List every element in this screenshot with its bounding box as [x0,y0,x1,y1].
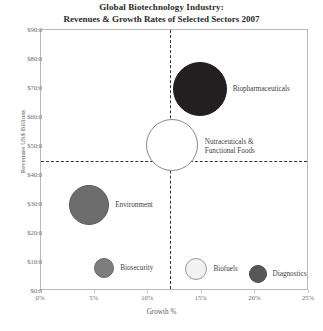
y-axis-title: Revenues US$ Billions [19,72,26,212]
y-tick-mark [37,261,40,262]
y-tick-mark [37,203,40,204]
bubble-label-line-2: Functional Foods [205,147,255,156]
chart-title-line-1: Global Biotechnology Industry: [0,2,323,14]
bubble-label-line-1: Nutraceuticals & [205,138,255,147]
bubble-label-biopharmaceuticals: Biopharmaceuticals [233,85,290,94]
chart-title: Global Biotechnology Industry: Revenues … [0,2,323,25]
x-tick-mark [147,290,148,293]
bubble-label-biosecurity: Biosecurity [120,264,153,273]
x-tick-mark [254,290,255,293]
plot-area: BiopharmaceuticalsNutraceuticals &Functi… [40,29,308,290]
bubble-label-biofuels: Biofuels [213,265,237,274]
y-tick-mark [37,174,40,175]
x-tick-label: 25% [302,294,314,301]
x-tick-label: 10% [141,294,153,301]
x-tick-mark [308,290,309,293]
bubble-biopharmaceuticals[interactable] [173,62,227,116]
bubble-biosecurity[interactable] [94,258,114,278]
x-tick-label: 15% [195,294,207,301]
bubble-label-diagnostics: Diagnostics [273,270,307,279]
bubble-nutraceuticals-functional-foods[interactable] [146,119,198,171]
y-tick-mark [37,145,40,146]
bubble-label-nutraceuticals-functional-foods: Nutraceuticals &Functional Foods [205,138,255,156]
bubble-environment[interactable] [69,185,109,225]
bubble-diagnostics[interactable] [249,265,267,283]
y-tick-mark [37,58,40,59]
x-tick-mark [201,290,202,293]
x-tick-mark [94,290,95,293]
bubble-biofuels[interactable] [185,258,207,280]
x-tick-label: 20% [248,294,260,301]
x-tick-mark [40,290,41,293]
bubble-chart: Global Biotechnology Industry: Revenues … [0,0,323,331]
y-tick-mark [37,232,40,233]
y-tick-mark [37,116,40,117]
y-tick-mark [37,29,40,30]
y-tick-mark [37,87,40,88]
bubble-label-environment: Environment [115,201,153,210]
x-axis-title: Growth % [0,308,323,316]
x-tick-label: 5% [89,294,98,301]
chart-title-line-2: Revenues & Growth Rates of Selected Sect… [0,14,323,26]
x-tick-label: 0% [36,294,45,301]
